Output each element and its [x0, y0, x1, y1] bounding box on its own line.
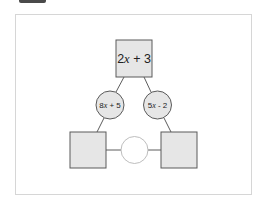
- left-circle-label: 8x + 5: [99, 101, 121, 110]
- left-circle: 8x + 5: [96, 91, 124, 119]
- top-box: 2x + 3: [116, 40, 152, 77]
- center-circle: [121, 137, 148, 164]
- connector-line: [97, 118, 104, 132]
- bottom-left-box: [70, 132, 106, 168]
- right-circle: 5x - 2: [144, 91, 172, 119]
- connector-line: [144, 77, 151, 92]
- arithmagon-diagram: 2x + 3 8x + 5 5x - 2: [0, 0, 262, 208]
- top-box-label: 2x + 3: [117, 52, 151, 66]
- bottom-right-box: [161, 132, 197, 168]
- connector-line: [116, 77, 124, 92]
- right-circle-label: 5x - 2: [148, 101, 168, 110]
- connector-line: [164, 118, 171, 132]
